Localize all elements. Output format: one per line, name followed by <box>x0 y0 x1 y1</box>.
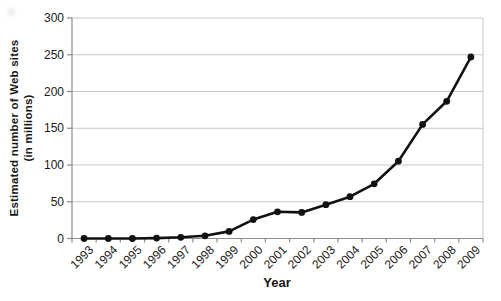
data-point-marker <box>298 209 305 216</box>
x-tick-labels-group: 1993199419951996199719981999200020012002… <box>68 239 484 272</box>
y-tick-label: 50 <box>51 195 65 209</box>
x-tick-label: 2003 <box>309 242 338 271</box>
data-point-marker <box>274 208 281 215</box>
y-tick-label: 150 <box>44 121 64 135</box>
x-tick-label: 2000 <box>237 242 266 271</box>
x-tick-label: 2001 <box>261 242 290 271</box>
data-point-marker <box>226 228 233 235</box>
data-point-marker <box>419 121 426 128</box>
x-tick-label: 1993 <box>68 242 97 271</box>
data-series-group <box>81 54 475 242</box>
data-point-marker <box>81 235 88 242</box>
y-tick-label: 200 <box>44 85 64 99</box>
x-tick-label: 2007 <box>406 242 435 271</box>
data-point-marker <box>323 201 330 208</box>
x-tick-label: 1998 <box>188 242 217 271</box>
data-point-marker <box>129 235 136 242</box>
x-tick-label: 1997 <box>164 242 193 271</box>
data-point-marker <box>153 235 160 242</box>
data-point-marker <box>395 158 402 165</box>
x-tick-label: 1999 <box>213 242 242 271</box>
data-point-marker <box>250 216 257 223</box>
x-tick-label: 1995 <box>116 242 145 271</box>
data-point-marker <box>177 234 184 241</box>
x-tick-label: 2004 <box>333 242 362 271</box>
y-tick-labels-group: 050100150200250300 <box>44 11 72 246</box>
chart-figure: Estimated number of Web sites (in millio… <box>0 0 501 301</box>
data-point-marker <box>105 235 112 242</box>
x-tick-label: 2005 <box>358 242 387 271</box>
y-tick-label: 0 <box>57 232 64 246</box>
data-point-marker <box>443 98 450 105</box>
x-tick-label: 1996 <box>140 242 169 271</box>
y-tick-label: 300 <box>44 11 64 25</box>
x-tick-label: 2008 <box>430 242 459 271</box>
data-point-marker <box>347 193 354 200</box>
data-point-marker <box>468 54 475 61</box>
x-axis-title: Year <box>237 275 317 290</box>
data-point-marker <box>202 232 209 239</box>
y-tick-label: 250 <box>44 48 64 62</box>
x-tick-label: 2002 <box>285 242 314 271</box>
x-tick-label: 1994 <box>92 242 121 271</box>
line-chart: 0501001502002503001993199419951996199719… <box>0 0 501 301</box>
data-point-marker <box>371 180 378 187</box>
x-tick-label: 2006 <box>382 242 411 271</box>
x-tick-label: 2009 <box>454 242 483 271</box>
y-tick-label: 100 <box>44 158 64 172</box>
